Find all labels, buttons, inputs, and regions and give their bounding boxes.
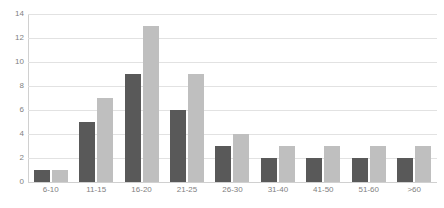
y-tick-label: 8 — [2, 82, 24, 90]
bar — [188, 74, 204, 182]
bar — [352, 158, 368, 182]
bar-group — [28, 14, 73, 182]
x-tick-label: 16-20 — [119, 186, 164, 194]
y-tick-label: 10 — [2, 58, 24, 66]
bar — [370, 146, 386, 182]
bar — [397, 158, 413, 182]
bar — [306, 158, 322, 182]
x-tick-label: 21-25 — [164, 186, 209, 194]
bar-group — [73, 14, 118, 182]
bar — [143, 26, 159, 182]
bar-group — [210, 14, 255, 182]
x-tick-label: 51-60 — [346, 186, 391, 194]
x-tick-label: 26-30 — [210, 186, 255, 194]
bar-group — [164, 14, 209, 182]
x-tick-label: >60 — [392, 186, 437, 194]
bar — [261, 158, 277, 182]
plot-area — [28, 14, 437, 182]
bar — [415, 146, 431, 182]
bar — [125, 74, 141, 182]
y-axis: 14121086420 — [0, 0, 24, 208]
x-tick-label: 11-15 — [73, 186, 118, 194]
bar-group — [255, 14, 300, 182]
bar — [34, 170, 50, 182]
bar — [52, 170, 68, 182]
y-tick-label: 0 — [2, 178, 24, 186]
y-tick-label: 2 — [2, 154, 24, 162]
y-tick-label: 4 — [2, 130, 24, 138]
bar-groups — [28, 14, 437, 182]
x-axis: 6-1011-1516-2021-2526-3031-4041-5051-60>… — [28, 186, 437, 194]
bar — [233, 134, 249, 182]
y-tick-label: 12 — [2, 34, 24, 42]
bar-group — [301, 14, 346, 182]
bar-group — [119, 14, 164, 182]
x-tick-label: 31-40 — [255, 186, 300, 194]
bar-group — [392, 14, 437, 182]
bar — [170, 110, 186, 182]
x-tick-label: 41-50 — [301, 186, 346, 194]
bar — [79, 122, 95, 182]
bar-chart: 14121086420 6-1011-1516-2021-2526-3031-4… — [0, 0, 444, 208]
bar — [97, 98, 113, 182]
bar-group — [346, 14, 391, 182]
x-tick-label: 6-10 — [28, 186, 73, 194]
bar — [215, 146, 231, 182]
y-tick-label: 6 — [2, 106, 24, 114]
bar — [324, 146, 340, 182]
bar — [279, 146, 295, 182]
axis-baseline — [28, 182, 437, 183]
y-tick-label: 14 — [2, 10, 24, 18]
